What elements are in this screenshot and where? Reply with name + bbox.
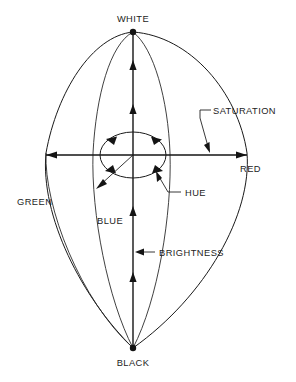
color-solid-diagram: WHITE BLACK RED GREEN BLUE HUE SATURATIO…	[0, 0, 296, 382]
arrow-head-icon	[129, 104, 136, 114]
arrow-head-icon	[46, 151, 57, 158]
vertex-dot-black	[130, 345, 136, 351]
arrow-head-icon	[236, 151, 247, 158]
arrow-head-icon	[135, 249, 144, 256]
arrow-head-icon	[151, 137, 162, 146]
label-brightness: BRIGHTNESS	[159, 248, 224, 258]
outer-boundary-left	[45, 32, 133, 348]
meridian-curve-right	[133, 32, 170, 348]
label-black: BLACK	[117, 358, 150, 368]
diagram-canvas: WHITE BLACK RED GREEN BLUE HUE SATURATIO…	[0, 0, 296, 382]
arrow-head-icon	[204, 142, 210, 153]
label-hue: HUE	[185, 188, 206, 198]
label-blue: BLUE	[97, 216, 123, 226]
arrow-head-icon	[129, 272, 136, 282]
label-green: GREEN	[17, 197, 52, 207]
saturation-leader-line	[200, 110, 211, 118]
label-saturation: SATURATION	[213, 106, 276, 116]
arrow-head-icon	[129, 206, 136, 216]
label-white: WHITE	[117, 14, 149, 24]
meridian-curve-blue	[93, 32, 133, 348]
label-red: RED	[240, 164, 261, 174]
vertex-dot-white	[130, 29, 136, 35]
arrow-head-icon	[129, 60, 136, 70]
